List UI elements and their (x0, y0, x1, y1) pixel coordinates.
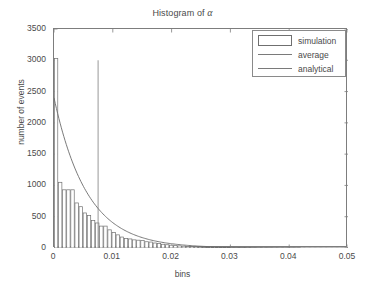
legend-label-analytical: analytical (298, 64, 333, 74)
y-axis-label: number of events (16, 62, 26, 162)
x-tick-label: 0.05 (327, 251, 365, 261)
legend-item-analytical: analytical (253, 61, 347, 76)
legend-item-simulation: simulation (253, 33, 347, 48)
y-tick-label: 2000 (0, 117, 46, 127)
figure-canvas: Histogram of α number of events bins 050… (0, 0, 365, 288)
x-tick-label: 0 (33, 251, 73, 261)
x-tick-label: 0.03 (209, 251, 249, 261)
x-tick-label: 0.04 (268, 251, 308, 261)
y-tick-label: 3000 (0, 54, 46, 64)
y-tick-label: 1500 (0, 148, 46, 158)
legend-swatch-average (258, 49, 292, 60)
legend-item-average: average (253, 47, 347, 62)
legend-swatch-analytical (258, 63, 292, 74)
legend-label-average: average (298, 50, 329, 60)
y-tick-label: 500 (0, 211, 46, 221)
x-tick-label: 0.01 (92, 251, 132, 261)
legend-box: simulation average analytical (252, 30, 346, 77)
x-tick-label: 0.02 (151, 251, 191, 261)
histogram-bars (54, 58, 300, 248)
alpha-symbol: α (207, 7, 212, 18)
chart-title-text: Histogram of (152, 8, 207, 18)
chart-title: Histogram of α (0, 7, 365, 18)
legend-swatch-simulation (258, 35, 292, 46)
y-tick-label: 3500 (0, 23, 46, 33)
y-tick-label: 2500 (0, 86, 46, 96)
legend-label-simulation: simulation (298, 36, 336, 46)
y-tick-label: 1000 (0, 179, 46, 189)
x-axis-label: bins (0, 269, 365, 279)
